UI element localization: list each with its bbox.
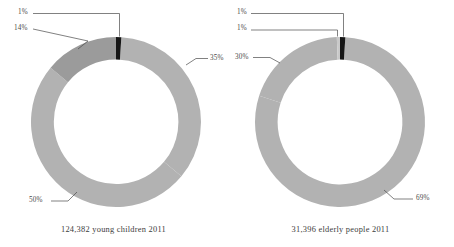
label-50pct-left: 50% bbox=[29, 197, 43, 204]
label-35pct-left: 35% bbox=[210, 55, 224, 62]
leader-line-35pct bbox=[186, 59, 208, 66]
chart-panel-young-children: 1% 14% 35% 50% 124,382 young children 20… bbox=[0, 0, 227, 247]
donut-slice-35 bbox=[120, 37, 201, 176]
donut-left-svg bbox=[0, 0, 227, 247]
donut-right: 1% 1% 30% 69% bbox=[227, 0, 454, 247]
donut-chart-figure: 1% 14% 35% 50% 124,382 young children 20… bbox=[0, 0, 454, 247]
caption-young-children: 124,382 young children 2011 bbox=[0, 225, 227, 234]
label-30pct-right: 30% bbox=[235, 54, 249, 61]
leader-line-1pct bbox=[33, 14, 120, 37]
donut-slice-50 bbox=[31, 68, 181, 207]
leader-line-1pct-second bbox=[251, 30, 338, 37]
label-1pct-right-second: 1% bbox=[237, 25, 247, 32]
label-14pct-left: 14% bbox=[14, 25, 28, 32]
donut-slice-30 bbox=[259, 37, 338, 103]
caption-elderly-people: 31,396 elderly people 2011 bbox=[227, 225, 454, 234]
donut-left: 1% 14% 35% 50% bbox=[0, 0, 227, 247]
donut-right-svg bbox=[227, 0, 454, 247]
leader-line-30pct bbox=[253, 58, 280, 64]
chart-panel-elderly-people: 1% 1% 30% 69% 31,396 elderly people 2011 bbox=[227, 0, 454, 247]
leader-line-1pct-first bbox=[251, 14, 344, 37]
donut-slice-14 bbox=[51, 37, 116, 82]
label-1pct-right-first: 1% bbox=[237, 9, 247, 16]
label-1pct-left: 1% bbox=[18, 9, 28, 16]
label-69pct-right: 69% bbox=[416, 195, 430, 202]
